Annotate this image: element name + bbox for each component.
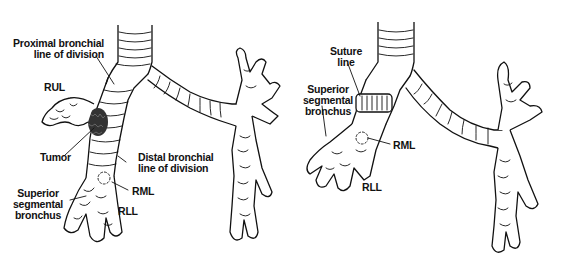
label-line: bronchus: [10, 210, 66, 221]
label-rml-2: RML: [393, 140, 415, 151]
label-tumor: Tumor: [40, 152, 71, 163]
label-line: line: [326, 57, 366, 68]
label-superior-segmental-bronchus-2: Superior segmental bronchus: [300, 84, 356, 117]
label-rll-2: RLL: [362, 182, 382, 193]
label-distal-line: Distal bronchial line of division: [138, 152, 214, 174]
label-line: line of division: [2, 49, 104, 60]
label-rml: RML: [132, 186, 154, 197]
label-line: line of division: [138, 163, 214, 174]
label-suture-line: Suture line: [326, 46, 366, 68]
label-rll: RLL: [118, 206, 138, 217]
label-rul: RUL: [44, 82, 65, 93]
label-proximal-line: Proximal bronchial line of division: [2, 38, 104, 60]
label-line: bronchus: [300, 106, 356, 117]
label-superior-segmental-bronchus: Superior segmental bronchus: [10, 188, 66, 221]
